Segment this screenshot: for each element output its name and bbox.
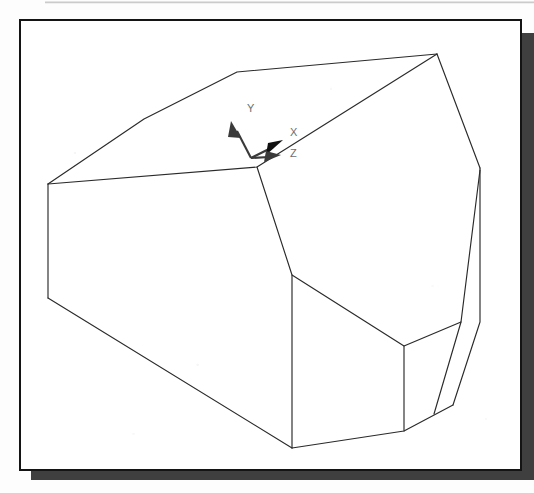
scanned-page-background: Y X Z <box>0 0 534 493</box>
wireframe-model-canvas[interactable]: Y X Z <box>21 21 522 471</box>
face-left <box>48 167 292 448</box>
page-top-scan-rule <box>45 1 534 4</box>
model-faces <box>48 54 480 448</box>
cad-viewport-frame[interactable]: Y X Z <box>19 19 522 471</box>
x-axis-label: X <box>290 126 298 138</box>
z-axis-label: Z <box>290 147 297 159</box>
y-axis-label: Y <box>247 102 255 114</box>
